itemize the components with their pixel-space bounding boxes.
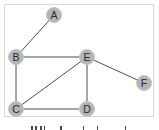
node-label: E (83, 51, 90, 63)
node-f: F (137, 76, 152, 91)
caption-glyph-fragment (44, 126, 45, 130)
edge-a-b (16, 15, 54, 57)
node-b: B (9, 50, 24, 65)
edges-layer (16, 15, 144, 109)
node-d: D (80, 102, 95, 117)
caption-glyph-fragment (31, 126, 33, 130)
figure-caption-clipped (0, 124, 159, 130)
caption-glyph-fragment (125, 126, 126, 130)
node-label: D (83, 103, 91, 115)
node-label: B (12, 51, 19, 63)
node-c: C (9, 102, 24, 117)
edge-c-e (16, 57, 87, 109)
node-a: A (47, 8, 62, 23)
caption-glyph-fragment (97, 126, 98, 130)
edge-e-f (87, 57, 144, 83)
caption-glyph-fragment (35, 126, 37, 130)
node-label: A (50, 9, 57, 21)
node-label: F (141, 77, 147, 89)
caption-glyph-fragment (83, 126, 84, 130)
node-label: C (12, 103, 20, 115)
node-e: E (80, 50, 95, 65)
graph-diagram: ABCDEF (0, 0, 159, 130)
caption-glyph-fragment (40, 126, 42, 130)
caption-glyph-fragment (60, 126, 62, 130)
